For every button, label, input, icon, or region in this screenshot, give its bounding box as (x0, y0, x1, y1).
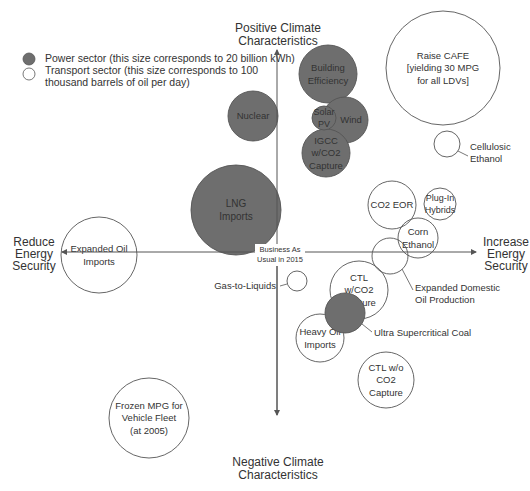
bubble-lng-imports: LNGImports (191, 165, 281, 255)
callout-label-cellulosic-ethanol: Cellulosic (470, 141, 511, 152)
bubble-circle-lng-imports (191, 165, 281, 255)
legend-power-swatch (23, 53, 35, 65)
bubble-label-ctl-with-co2: CTL (350, 272, 368, 283)
axis-label-left: Reduce Energy Security (12, 235, 55, 273)
legend-transport-label-line2: thousand barrels of oil per day) (45, 76, 190, 88)
bubble-label-wind: Wind (340, 114, 362, 125)
legend: Power sector (this size corresponds to 2… (23, 52, 295, 88)
axis-label-right-line3: Security (484, 259, 527, 273)
bubble-co2-eor: CO2 EOR (368, 181, 416, 229)
bubble-plug-in-hybrids: Plug-InHybrids (424, 188, 456, 220)
bubble-label-raise-cafe: Raise CAFE (417, 50, 469, 61)
callout-line-cellulosic-ethanol (458, 151, 468, 156)
bubble-label-co2-eor: CO2 EOR (371, 199, 414, 210)
axis-label-left-line3: Security (12, 259, 55, 273)
bubble-ctl-without-co2: CTL w/oCO2Capture (358, 352, 414, 408)
bubble-expanded-domestic-oil: Expanded DomesticOil Production (372, 238, 500, 305)
axis-label-top-line2: Characteristics (238, 34, 317, 48)
origin-label: Business As Usual in 2015 (255, 244, 305, 266)
bubble-circle-ultra-supercritical-coal (325, 293, 365, 333)
bubble-label-igcc: IGCC (314, 135, 338, 146)
callout-line-expanded-domestic-oil (402, 269, 413, 290)
axis-label-top: Positive Climate Characteristics (235, 21, 321, 48)
bubble-label-lng-imports: Imports (219, 211, 252, 222)
bubble-label-igcc: Capture (309, 160, 343, 171)
callout-label-gas-to-liquids: Gas-to-Liquids (214, 280, 276, 291)
legend-power-label: Power sector (this size corresponds to 2… (45, 52, 295, 64)
bubble-label-frozen-mpg: (at 2005) (130, 425, 168, 436)
bubble-nuclear: Nuclear (228, 91, 278, 141)
bubble-expanded-oil-imports: Expanded OilImports (61, 217, 137, 293)
origin-label-line2: Usual in 2015 (257, 255, 303, 264)
axis-label-bottom-line1: Negative Climate (232, 455, 324, 469)
callout-label-expanded-domestic-oil: Expanded Domestic (415, 282, 500, 293)
bubble-frozen-mpg: Frozen MPG forVehicle Fleet(at 2005) (109, 378, 189, 458)
bubble-label-corn-ethanol: Corn (408, 226, 429, 237)
bubble-label-nuclear: Nuclear (237, 110, 270, 121)
bubble-gas-to-liquids: Gas-to-Liquids (214, 271, 307, 291)
axis-label-bottom-line2: Characteristics (238, 468, 317, 482)
bubble-label-building-efficiency: Building (311, 62, 345, 73)
bubble-building-efficiency: BuildingEfficiency (299, 45, 357, 103)
bubble-label-plug-in-hybrids: Hybrids (425, 205, 456, 215)
bubble-circle-cellulosic-ethanol (434, 131, 460, 157)
bubble-label-frozen-mpg: Vehicle Fleet (122, 412, 177, 423)
bubble-label-raise-cafe: for all LDVs] (417, 75, 469, 86)
bubble-raise-cafe: Raise CAFE[yielding 30 MPGfor all LDVs] (386, 11, 500, 125)
bubble-label-ctl-without-co2: CTL w/o (368, 362, 403, 373)
bubble-cellulosic-ethanol: CellulosicEthanol (434, 131, 511, 164)
bubble-label-solar-pv: Solar (313, 107, 334, 117)
bubble-label-igcc: w/CO2 (310, 147, 340, 158)
callout-label-ultra-supercritical-coal: Ultra Supercritical Coal (374, 327, 471, 338)
energy-security-climate-diagram: Power sector (this size corresponds to 2… (0, 0, 530, 491)
bubble-igcc: IGCCw/CO2Capture (302, 129, 350, 177)
axis-label-top-line1: Positive Climate (235, 21, 321, 35)
bubble-label-frozen-mpg: Frozen MPG for (115, 400, 183, 411)
bubble-circle-gas-to-liquids (287, 271, 307, 291)
bubble-label-lng-imports: LNG (226, 198, 247, 209)
bubble-circle-expanded-domestic-oil (372, 238, 408, 274)
bubble-label-corn-ethanol: Ethanol (402, 239, 434, 250)
bubble-label-heavy-oil-imports: Imports (304, 339, 336, 350)
bubble-label-ctl-without-co2: CO2 (376, 374, 396, 385)
origin-label-line1: Business As (260, 245, 301, 254)
legend-transport-label-line1: Transport sector (this size corresponds … (45, 64, 258, 76)
bubble-label-raise-cafe: [yielding 30 MPG (407, 62, 479, 73)
callout-line-gas-to-liquids (280, 284, 287, 286)
callout-line-ultra-supercritical-coal (362, 324, 372, 332)
bubble-label-ctl-without-co2: Capture (369, 387, 403, 398)
legend-transport-swatch (23, 68, 35, 80)
bubble-label-expanded-oil-imports: Imports (83, 256, 115, 267)
axis-label-bottom: Negative Climate Characteristics (232, 455, 324, 482)
bubble-solar-pv: SolarPV (312, 106, 336, 130)
bubble-label-building-efficiency: Efficiency (308, 75, 349, 86)
bubble-label-solar-pv: PV (318, 119, 330, 129)
callout-label-cellulosic-ethanol: Ethanol (470, 153, 502, 164)
callout-label-expanded-domestic-oil: Oil Production (415, 294, 475, 305)
bubble-label-plug-in-hybrids: Plug-In (426, 193, 455, 203)
axis-label-right: Increase Energy Security (483, 235, 529, 273)
